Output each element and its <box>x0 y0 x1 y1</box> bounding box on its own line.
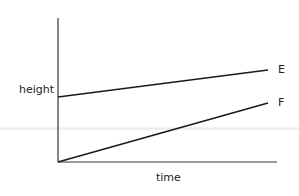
series-e-label: E <box>278 64 285 75</box>
series-e-line <box>58 70 268 97</box>
series-f-label: F <box>278 97 284 108</box>
line-chart: height time E F <box>0 0 299 196</box>
chart-plot <box>0 0 299 196</box>
series-f-line <box>58 103 268 162</box>
x-axis-label: time <box>156 172 181 183</box>
y-axis-label: height <box>19 84 54 95</box>
